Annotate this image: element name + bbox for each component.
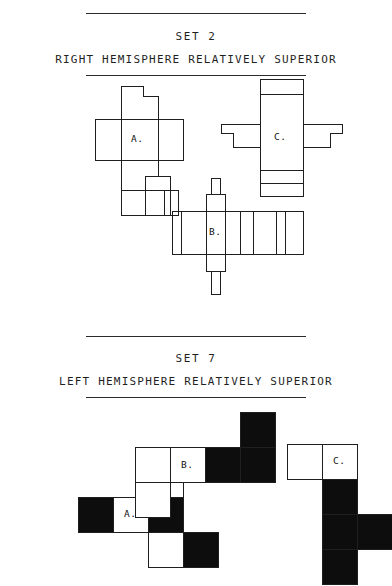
figure-c-bottom-label: C. xyxy=(333,455,345,466)
set7-figures-svg xyxy=(0,0,392,586)
figure-a-bottom-label: A. xyxy=(124,508,136,519)
set7-figure-group xyxy=(0,0,392,586)
figure-b-bottom xyxy=(135,412,275,517)
figure-b-bottom-label: B. xyxy=(181,459,193,470)
figure-sheet: SET 2 RIGHT HEMISPHERE RELATIVELY SUPERI… xyxy=(0,0,392,586)
